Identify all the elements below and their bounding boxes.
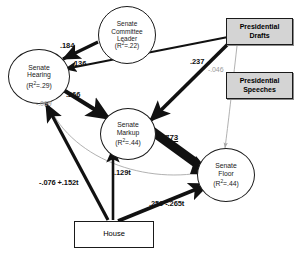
- node-label-line2: Floor: [218, 170, 234, 178]
- edge-label-hearing-to-markup: .266: [66, 90, 80, 99]
- node-house[interactable]: House: [74, 221, 154, 248]
- node-senate-floor[interactable]: Senate Floor (R2=.44): [197, 148, 255, 202]
- node-r2: (R2=.22): [115, 42, 139, 49]
- node-label-line2: Hearing: [27, 71, 51, 79]
- edge-label-hearing-to-floor: -.069: [36, 100, 51, 107]
- edge-label-leader-to-hearing: .184: [60, 41, 74, 50]
- edge-label-drafts-to-hearing: .136: [72, 59, 86, 68]
- node-senate-hearing[interactable]: Senate Hearing (R2=.29): [8, 49, 70, 104]
- node-r2: (R2=.44): [115, 139, 141, 147]
- node-label-line1: Presidential: [240, 77, 280, 85]
- node-label-line1: Senate: [28, 64, 50, 72]
- edge-drafts-to-markup: [150, 41, 231, 121]
- node-label-line1: Senate: [117, 121, 139, 129]
- node-label-line1: Senate: [215, 162, 237, 170]
- node-label-line2: Drafts: [249, 32, 269, 40]
- node-label-line2: Markup: [117, 129, 140, 137]
- edge-label-drafts-to-markup: .237: [190, 57, 204, 66]
- node-r2: (R2=.44): [213, 180, 239, 188]
- node-label-line2: Committee: [111, 28, 142, 35]
- node-label-line2: Speeches: [243, 86, 276, 94]
- node-label-line1: Senate: [117, 20, 138, 27]
- edge-label-house-to-markup: .129t: [114, 168, 131, 177]
- node-presidential-drafts[interactable]: Presidential Drafts: [226, 18, 293, 45]
- node-presidential-speeches[interactable]: Presidential Speeches: [226, 72, 293, 99]
- edge-label-drafts-to-floor: -.046: [208, 66, 223, 73]
- node-label-line1: Presidential: [240, 23, 280, 31]
- edge-label-house-to-hearing: -.076 +.152t: [39, 178, 78, 187]
- edge-label-house-to-floor: .259 -.265t: [149, 199, 184, 208]
- node-senate-committee-leader[interactable]: Senate Committee Leader (R2=.22): [98, 6, 156, 64]
- node-senate-markup[interactable]: Senate Markup (R2=.44): [100, 108, 156, 160]
- edge-house-to-hearing: [46, 104, 108, 220]
- node-r2: (R2=.29): [26, 82, 52, 90]
- edge-label-markup-to-floor: .773: [163, 133, 178, 142]
- node-label-line1: House: [103, 230, 125, 239]
- path-diagram: Senate Committee Leader (R2=.22) Senate …: [0, 0, 300, 263]
